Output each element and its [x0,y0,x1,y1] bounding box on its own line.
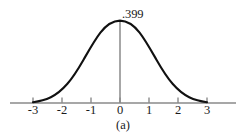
x-tick-label-three: 3 [204,104,210,117]
peak-value-label: .399 [122,8,143,21]
x-tick-label-minus1: -1 [86,104,96,117]
x-tick-label-one: 1 [146,104,152,117]
x-tick-label-minus2: -2 [57,104,67,117]
x-tick-label-two: 2 [175,104,181,117]
figure-caption: (a) [116,119,130,132]
x-tick-label-minus3: -3 [28,104,38,117]
normal-distribution-figure: .399 -3 -2 -1 0 1 2 3 (a) [0,0,246,138]
x-tick-label-zero: 0 [117,104,123,117]
